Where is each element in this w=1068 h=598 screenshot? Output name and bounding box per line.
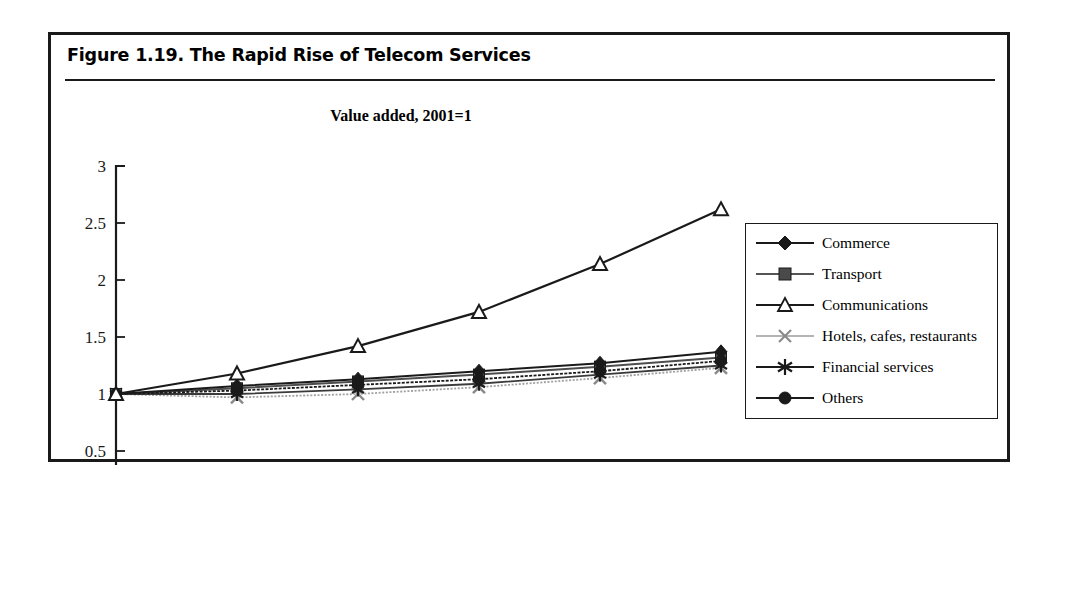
- legend-label: Transport: [822, 266, 882, 282]
- legend-label: Commerce: [822, 235, 890, 251]
- legend-item-others[interactable]: Others: [746, 383, 863, 413]
- y-axis-tick-label: 2: [98, 271, 107, 290]
- square-marker-icon: [754, 261, 816, 287]
- cross-marker-icon: [754, 323, 816, 349]
- asterisk-marker-icon: [754, 354, 816, 380]
- y-axis-tick-label: 1: [98, 385, 107, 404]
- legend-item-financial-services[interactable]: Financial services: [746, 352, 933, 382]
- legend-label: Others: [822, 390, 863, 406]
- legend-label: Hotels, cafes, restaurants: [822, 328, 977, 344]
- figure-frame: Figure 1.19. The Rapid Rise of Telecom S…: [48, 32, 1010, 462]
- y-axis-tick-label: 0.5: [85, 442, 106, 461]
- diamond-marker-icon: [754, 230, 816, 256]
- legend-label: Financial services: [822, 359, 933, 375]
- circle-marker-icon: [754, 385, 816, 411]
- legend-item-commerce[interactable]: Commerce: [746, 228, 890, 258]
- legend-item-hotels-cafes-restaurants[interactable]: Hotels, cafes, restaurants: [746, 321, 977, 351]
- y-axis-tick-label: 1.5: [85, 328, 106, 347]
- triangle-marker-icon: [754, 292, 816, 318]
- series-hotels-cafes-restaurants: [110, 362, 727, 404]
- legend-item-communications[interactable]: Communications: [746, 290, 928, 320]
- y-axis-tick-label: 3: [98, 157, 107, 176]
- legend-item-transport[interactable]: Transport: [746, 259, 882, 289]
- series-communications: [109, 202, 728, 400]
- chart-legend: Commerce Transport Communications Hotels…: [745, 223, 998, 419]
- y-axis-tick-label: 2.5: [85, 214, 106, 233]
- legend-label: Communications: [822, 297, 928, 313]
